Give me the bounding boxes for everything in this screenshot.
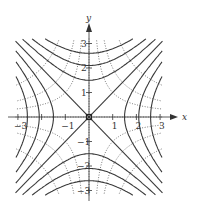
y-axis-label: y: [85, 13, 92, 23]
y-tick-label: 3: [81, 39, 87, 49]
x-axis-arrow-icon: [170, 114, 178, 120]
x-tick-label: −3: [14, 121, 28, 131]
x-tick-label: 1: [112, 121, 118, 131]
y-axis-arrow-icon: [86, 23, 92, 32]
y-tick-label: −1: [77, 137, 90, 147]
x-tick-label: 3: [159, 121, 165, 131]
y-tick-label: 1: [81, 88, 87, 98]
x-axis-label: x: [182, 112, 187, 122]
x-tick-label: 2: [135, 121, 141, 131]
y-tick-label: −3: [77, 186, 91, 196]
y-tick-label: −2: [77, 161, 90, 171]
hyperbola-diagram: −3−1123−3−2−1123 x y: [0, 0, 199, 209]
x-tick-label: −1: [61, 121, 74, 131]
y-tick-label: 2: [81, 63, 87, 73]
